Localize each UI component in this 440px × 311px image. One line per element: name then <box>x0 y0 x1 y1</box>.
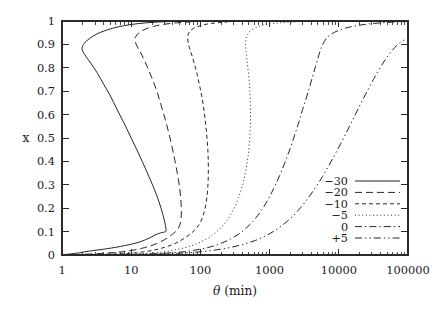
line-chart: 110100100010000100000 00.10.20.30.40.50.… <box>0 0 440 311</box>
y-tick-label: 0.1 <box>37 225 55 239</box>
x-axis-title: θ (min) <box>213 284 257 298</box>
y-tick-label: 0.6 <box>37 108 55 122</box>
y-tick-label: 0.2 <box>37 201 55 215</box>
data-curves <box>63 21 408 255</box>
y-axis-ticks <box>62 21 408 255</box>
x-tick-label: 10 <box>124 263 139 277</box>
x-tick-label: 100 <box>190 263 212 277</box>
chart-legend: −30−20−10−50+5 <box>324 175 400 245</box>
x-axis-tick-labels: 110100100010000100000 <box>58 263 429 277</box>
y-tick-label: 0 <box>48 248 55 262</box>
x-tick-label: 1000 <box>255 263 284 277</box>
y-tick-label: 0.3 <box>37 178 55 192</box>
curve-series-0 <box>63 21 408 255</box>
curve-series-2 <box>63 21 408 255</box>
y-tick-label: 1 <box>48 14 55 28</box>
curve-series-5 <box>63 37 408 255</box>
y-tick-label: 0.7 <box>37 84 55 98</box>
figure-container: 110100100010000100000 00.10.20.30.40.50.… <box>0 0 440 311</box>
curve-series-1 <box>63 21 408 255</box>
legend-label-5: +5 <box>332 232 349 245</box>
y-axis-title: x <box>23 131 30 145</box>
x-tick-label: 10000 <box>321 263 357 277</box>
y-tick-label: 0.9 <box>37 37 55 51</box>
curve-series-3 <box>63 21 408 255</box>
y-tick-label: 0.8 <box>37 61 55 75</box>
curve-series-4 <box>63 21 408 254</box>
y-axis-tick-labels: 00.10.20.30.40.50.60.70.80.91 <box>37 14 55 262</box>
x-tick-label: 100000 <box>386 263 429 277</box>
x-axis-ticks <box>62 21 408 255</box>
x-tick-label: 1 <box>58 263 65 277</box>
y-tick-label: 0.4 <box>37 154 55 168</box>
plot-frame <box>62 21 408 255</box>
y-tick-label: 0.5 <box>37 131 55 145</box>
